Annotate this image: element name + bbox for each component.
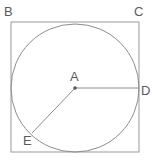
- vertex-label-b: B: [4, 5, 13, 18]
- radius-line-a-to-e: [32, 88, 75, 133]
- center-point-dot: [73, 86, 77, 90]
- vertex-label-d: D: [141, 84, 150, 97]
- vertex-label-a: A: [70, 70, 79, 83]
- vertex-label-c: C: [134, 5, 143, 18]
- geometry-figure: B C A D E: [0, 0, 152, 162]
- vertex-label-e: E: [23, 134, 32, 147]
